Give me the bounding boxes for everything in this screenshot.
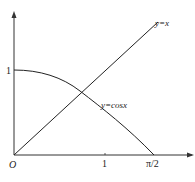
line-label-y-equals-x: y=x — [154, 18, 169, 28]
x-tick-label-1: 1 — [102, 158, 107, 169]
curve-y-equals-cosx — [14, 70, 154, 155]
chart-canvas: O 1 π/2 1 y=x y=cosx — [0, 0, 195, 182]
x-tick-label-pi-over-2: π/2 — [146, 158, 159, 169]
y-tick-label-1: 1 — [6, 65, 11, 76]
y-axis-arrow-icon — [12, 11, 17, 18]
x-axis-arrow-icon — [187, 153, 194, 158]
line-y-equals-x — [14, 22, 158, 155]
curve-label-y-equals-cosx: y=cosx — [100, 100, 127, 110]
origin-label: O — [9, 159, 16, 170]
